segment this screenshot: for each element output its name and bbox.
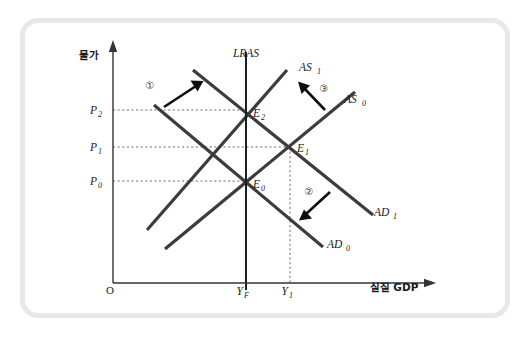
tick-label-p1: P 1: [89, 141, 102, 156]
tick-p0-base: P: [89, 175, 97, 187]
curve-label-ad0: AD 0: [326, 238, 350, 253]
step-marker-3: ③: [320, 83, 329, 94]
tick-p2-base: P: [89, 104, 97, 116]
curve-label-ad1: AD 1: [373, 206, 397, 221]
tick-y1-sub: 1: [289, 291, 293, 300]
curve-label-ad0-base: AD: [326, 238, 343, 250]
tick-p1-sub: 1: [98, 147, 102, 156]
curve-label-as0-base: AS: [343, 93, 357, 105]
tick-p1-base: P: [89, 141, 97, 153]
tick-yf-sub: F: [243, 291, 249, 300]
x-axis-label: 실질 GDP: [370, 281, 419, 293]
curve-label-as1-sub: 1: [317, 67, 321, 76]
curve-label-ad1-sub: 1: [393, 212, 397, 221]
curve-label-as1: AS 1: [298, 61, 321, 76]
curve-label-ad0-sub: 0: [346, 244, 350, 253]
y-axis-arrow-icon: [109, 40, 117, 52]
equilibrium-e2-base: E: [252, 107, 260, 119]
tick-label-p2: P 2: [89, 104, 102, 119]
curve-label-lras: LRAS: [232, 47, 259, 59]
step-arrow-1: [164, 81, 204, 108]
curve-label-as0: AS 0: [343, 93, 366, 108]
curve-label-ad1-base: AD: [373, 206, 390, 218]
curve-label-as1-base: AS: [298, 61, 312, 73]
equilibrium-e0-base: E: [252, 178, 260, 190]
tick-label-yf: Y F: [237, 285, 249, 300]
tick-label-y1: Y 1: [282, 285, 293, 300]
curve-ad1: [193, 70, 373, 215]
y-axis-label: 물가: [79, 49, 99, 61]
step-marker-2: ②: [305, 186, 314, 197]
x-axis-arrow-icon: [424, 279, 436, 287]
ad-as-diagram: 물가 실질 GDP O P 2 P 1 P 0 Y F Y 1 LRAS AS …: [0, 0, 530, 338]
origin-label: O: [106, 284, 114, 296]
tick-p0-sub: 0: [98, 181, 102, 190]
equilibrium-e1-base: E: [296, 142, 304, 154]
equilibrium-e2-sub: 2: [261, 113, 265, 122]
tick-p2-sub: 2: [98, 110, 102, 119]
step-marker-1: ①: [146, 80, 155, 91]
tick-label-p0: P 0: [89, 175, 102, 190]
equilibrium-e0-sub: 0: [261, 184, 265, 193]
curve-label-as0-sub: 0: [362, 99, 366, 108]
equilibrium-e1-sub: 1: [305, 148, 309, 157]
